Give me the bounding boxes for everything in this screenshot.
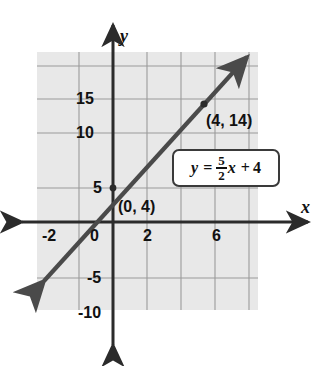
y-tick-minus-5: -5 [87, 270, 101, 286]
graph-figure: 15 10 5 -5 -10 -2 0 2 6 y x (4, 14) (0, … [0, 0, 325, 366]
fraction-denominator: 2 [216, 169, 227, 182]
y-tick-10: 10 [76, 125, 94, 141]
equation-lhs: y [191, 160, 200, 176]
point-marker-0-4 [110, 185, 117, 192]
x-tick-6: 6 [212, 228, 221, 244]
x-tick-minus-2: -2 [42, 228, 56, 244]
x-tick-2: 2 [143, 228, 152, 244]
equation-fraction: 5 2 [216, 154, 227, 182]
y-tick-15: 15 [76, 91, 94, 107]
fraction-numerator: 5 [216, 154, 227, 167]
equation-plus: + [238, 160, 253, 176]
point-label-0-4: (0, 4) [118, 199, 155, 215]
equation-variable: x [228, 160, 238, 176]
y-tick-5: 5 [93, 180, 102, 196]
point-label-4-14: (4, 14) [206, 113, 252, 129]
x-axis-name: x [301, 198, 310, 216]
equation-callout-box: y = 5 2 x + 4 [172, 149, 280, 187]
y-tick-minus-10: -10 [78, 305, 101, 321]
equation-expression: y = 5 2 x + 4 [191, 154, 261, 182]
x-tick-0: 0 [90, 228, 99, 244]
equation-constant: 4 [253, 160, 261, 176]
point-marker-4-14 [200, 100, 207, 107]
equation-equals: = [200, 160, 215, 176]
y-axis-name: y [120, 27, 128, 45]
